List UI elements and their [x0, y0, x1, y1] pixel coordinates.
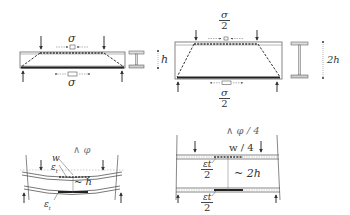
bent-shallow-beam: [20, 155, 125, 203]
rotation-quarter-label: ∧ φ / 4: [226, 126, 260, 136]
stress-fraction-bottom: σ 2: [219, 88, 230, 109]
angle-icon: ∧: [73, 144, 80, 155]
strain-fraction-bottom: εt 2: [201, 193, 213, 213]
strain-denominator-bottom: 2: [201, 203, 213, 213]
depth-approx-2h: ~ 2h: [234, 168, 261, 179]
i-section-deep: [291, 42, 308, 78]
depth-approx-h: ~ h: [74, 177, 92, 187]
strain-denominator-top: 2: [201, 170, 213, 180]
rotation-symbol: φ: [84, 144, 91, 155]
strain-fraction-top: εt 2: [201, 160, 213, 180]
strain-subscript: t: [49, 205, 51, 211]
depth-label-2h: 2h: [327, 55, 340, 65]
strain-label-bottom: εt: [44, 200, 51, 211]
stress-denominator-top: 2: [219, 21, 230, 31]
stress-label-bottom: σ: [68, 77, 76, 88]
stress-fraction-top: σ 2: [219, 10, 230, 31]
dimension-h: [157, 50, 159, 69]
strain-subscript: t: [56, 168, 58, 174]
bent-deep-beam: [176, 135, 280, 203]
diagram-canvas: [0, 0, 350, 215]
angle-icon: ∧: [226, 125, 233, 136]
i-section-shallow: [129, 51, 144, 68]
deflection-quarter-label: w / 4: [229, 143, 254, 153]
rotation-quarter-symbol: φ / 4: [237, 125, 260, 136]
deep-beam: [175, 30, 282, 92]
rotation-label: ∧ φ: [73, 145, 91, 155]
strain-label-top: εt: [51, 163, 58, 174]
stress-label-top: σ: [68, 33, 76, 44]
depth-label-h: h: [161, 54, 168, 65]
stress-denominator-bottom: 2: [219, 99, 230, 109]
dimension-2h: [322, 41, 324, 79]
